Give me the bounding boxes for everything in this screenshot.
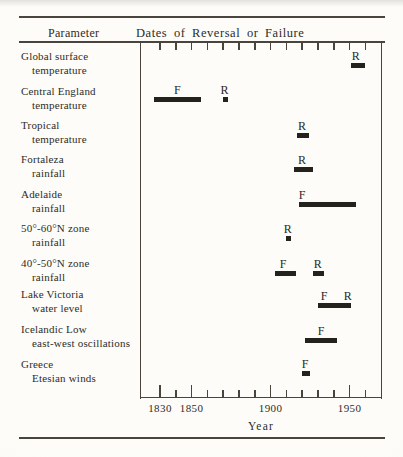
parameter-label-line1: Central England bbox=[21, 85, 96, 99]
timeline-bar bbox=[302, 371, 310, 376]
timeline-bar bbox=[299, 202, 356, 207]
parameter-label-line2: water level bbox=[32, 302, 84, 316]
x-axis-tick-label: 1900 bbox=[259, 402, 283, 414]
top-axis-tick bbox=[286, 42, 288, 50]
parameter-label-line2: rainfall bbox=[32, 271, 90, 285]
parameter-label-line1: Global surface bbox=[21, 50, 88, 64]
mark-letter: F bbox=[280, 257, 287, 272]
timeline-bar bbox=[351, 63, 365, 68]
parameter-label-line1: Lake Victoria bbox=[21, 288, 84, 302]
timeline-bar bbox=[223, 97, 228, 102]
mark-letter: F bbox=[321, 289, 328, 304]
parameter-label-line1: 40°-50°N zone bbox=[21, 257, 90, 271]
mark-letter: F bbox=[174, 83, 181, 98]
timeline-bar bbox=[313, 271, 324, 276]
x-axis-tick-label: 1830 bbox=[148, 402, 172, 414]
parameter-label: Central Englandtemperature bbox=[21, 85, 96, 112]
top-axis-tick bbox=[222, 42, 224, 50]
x-axis-tick-label: 1850 bbox=[180, 402, 204, 414]
parameter-label-line1: 50°-60°N zone bbox=[21, 222, 90, 236]
parameter-label: GreeceEtesian winds bbox=[21, 358, 96, 385]
parameter-label: Fortalezarainfall bbox=[21, 153, 65, 180]
mark-letter: F bbox=[299, 188, 306, 203]
scan-edge-shading bbox=[0, 0, 403, 7]
bottom-rule bbox=[19, 437, 385, 439]
timeline-bar bbox=[275, 271, 296, 276]
parameter-label-line2: temperature bbox=[32, 64, 88, 78]
top-axis-tick bbox=[175, 42, 177, 50]
parameter-column-header: Parameter bbox=[48, 26, 99, 41]
chart-left-frame-line bbox=[140, 42, 142, 399]
x-axis-minor-tick bbox=[301, 390, 303, 398]
parameter-label-line1: Icelandic Low bbox=[21, 323, 130, 337]
top-axis-tick bbox=[207, 42, 209, 50]
parameter-label-line1: Tropical bbox=[21, 119, 87, 133]
parameter-label-line2: temperature bbox=[32, 99, 96, 113]
top-axis-tick bbox=[349, 42, 351, 50]
parameter-label: 50°-60°N zonerainfall bbox=[21, 222, 90, 249]
parameter-label-line2: east-west oscillations bbox=[32, 337, 130, 351]
dates-column-header: Dates of Reversal or Failure bbox=[136, 26, 304, 41]
parameter-label: Icelandic Loweast-west oscillations bbox=[21, 323, 130, 350]
mark-letter: R bbox=[314, 257, 322, 272]
x-axis-major-tick bbox=[349, 385, 351, 398]
mark-letter: R bbox=[344, 289, 352, 304]
parameter-label: 40°-50°N zonerainfall bbox=[21, 257, 90, 284]
x-axis-minor-tick bbox=[365, 390, 367, 398]
top-rule bbox=[19, 16, 385, 18]
parameter-label: Lake Victoriawater level bbox=[21, 288, 84, 315]
scanned-figure: Parameter Dates of Reversal or Failure 1… bbox=[0, 0, 403, 457]
x-axis-minor-tick bbox=[333, 390, 335, 398]
x-axis-minor-tick bbox=[238, 390, 240, 398]
parameter-label-line2: rainfall bbox=[32, 167, 65, 181]
parameter-label-line1: Adelaide bbox=[21, 188, 65, 202]
parameter-label-line2: temperature bbox=[32, 133, 87, 147]
x-axis-minor-tick bbox=[286, 390, 288, 398]
timeline-bar bbox=[286, 236, 291, 241]
top-axis-tick bbox=[238, 42, 240, 50]
mark-letter: F bbox=[318, 324, 325, 339]
top-axis-tick bbox=[254, 42, 256, 50]
x-axis-minor-tick bbox=[317, 390, 319, 398]
mark-letter: R bbox=[298, 153, 306, 168]
parameter-label-line1: Fortaleza bbox=[21, 153, 65, 167]
x-axis-major-tick bbox=[270, 385, 272, 398]
header-separator-rule bbox=[19, 41, 385, 43]
parameter-label-line2: rainfall bbox=[32, 236, 90, 250]
timeline-bar bbox=[305, 338, 337, 343]
parameter-label-line2: rainfall bbox=[32, 202, 65, 216]
mark-letter: R bbox=[221, 83, 229, 98]
parameter-label: Adelaiderainfall bbox=[21, 188, 65, 215]
top-axis-tick bbox=[301, 42, 303, 50]
parameter-label: Global surfacetemperature bbox=[21, 50, 88, 77]
x-axis-title: Year bbox=[248, 420, 274, 432]
mark-letter: R bbox=[352, 49, 360, 64]
top-axis-tick bbox=[317, 42, 319, 50]
mark-letter: F bbox=[302, 357, 309, 372]
x-axis-minor-tick bbox=[254, 390, 256, 398]
x-axis-minor-tick bbox=[222, 390, 224, 398]
x-axis-major-tick bbox=[159, 385, 161, 398]
mark-letter: R bbox=[298, 119, 306, 134]
x-axis-minor-tick bbox=[207, 390, 209, 398]
x-axis-major-tick bbox=[191, 385, 193, 398]
chart-right-frame-line bbox=[381, 42, 383, 399]
top-axis-tick bbox=[159, 42, 161, 50]
top-axis-tick bbox=[365, 42, 367, 50]
timeline-bar bbox=[294, 167, 313, 172]
parameter-label-line1: Greece bbox=[21, 358, 96, 372]
timeline-bar bbox=[154, 97, 201, 102]
timeline-bar bbox=[297, 133, 308, 138]
top-axis-tick bbox=[191, 42, 193, 50]
timeline-bar bbox=[318, 303, 351, 308]
parameter-label-line2: Etesian winds bbox=[32, 372, 96, 386]
parameter-label: Tropicaltemperature bbox=[21, 119, 87, 146]
top-axis-tick bbox=[270, 42, 272, 50]
top-axis-tick bbox=[333, 42, 335, 50]
mark-letter: R bbox=[284, 222, 292, 237]
x-axis-tick-label: 1950 bbox=[338, 402, 362, 414]
x-axis-minor-tick bbox=[175, 390, 177, 398]
